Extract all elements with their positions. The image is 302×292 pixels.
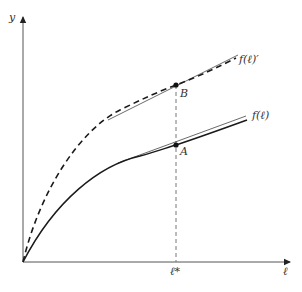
production-function-figure: y ℓ ℓ* B A f(ℓ)′ f(ℓ) xyxy=(0,0,302,292)
y-axis-label: y xyxy=(9,12,15,23)
curve-f-prime xyxy=(23,58,236,262)
curve-f xyxy=(23,120,247,262)
point-B-label: B xyxy=(180,88,188,99)
diagram-canvas xyxy=(0,0,302,292)
curve-f-prime-label: f(ℓ)′ xyxy=(239,54,259,65)
point-A xyxy=(173,142,178,147)
point-A-label: A xyxy=(180,146,188,157)
point-B xyxy=(173,82,178,87)
tangent-at-B xyxy=(108,55,238,120)
curve-f-label: f(ℓ) xyxy=(252,110,269,121)
l-star-label: ℓ* xyxy=(170,266,180,277)
x-axis-label: ℓ xyxy=(283,266,288,277)
